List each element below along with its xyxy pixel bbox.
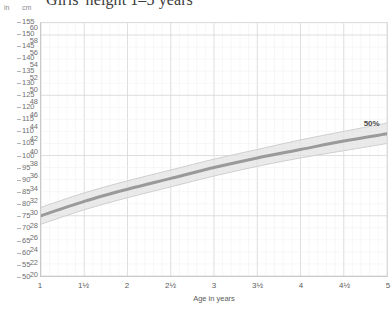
percentile-annotation: 50% xyxy=(364,119,380,128)
y-tick-mark xyxy=(17,216,21,217)
y-tick-mark xyxy=(17,180,21,181)
y-tick-mark xyxy=(17,83,21,84)
y-tick-inches: 50 xyxy=(30,86,38,94)
x-tick-label: 5 xyxy=(386,281,390,290)
x-tick-label: 2 xyxy=(125,281,129,290)
y-tick-mark xyxy=(17,156,21,157)
y-tick-inches: 40 xyxy=(30,148,38,156)
y-tick-inches: 22 xyxy=(30,259,38,267)
y-tick-inches: 30 xyxy=(30,209,38,217)
y-tick-mark xyxy=(17,46,21,47)
axis-unit-inches: in xyxy=(4,4,9,11)
y-tick-mark xyxy=(17,143,21,144)
y-tick-mark xyxy=(17,95,21,96)
y-tick-mark xyxy=(17,204,21,205)
y-tick-inches: 36 xyxy=(30,172,38,180)
y-tick-mark xyxy=(17,71,21,72)
y-tick-inches: 26 xyxy=(30,234,38,242)
x-tick-label: 1 xyxy=(38,281,42,290)
y-tick-inches: 28 xyxy=(30,222,38,230)
x-tick-label: 2½ xyxy=(165,281,176,290)
y-tick-mark xyxy=(17,277,21,278)
x-tick-label: 4½ xyxy=(339,281,350,290)
x-tick-label: 3 xyxy=(212,281,216,290)
growth-curve-50th-percentile xyxy=(41,23,387,276)
y-tick-mark xyxy=(17,265,21,266)
y-tick-inches: 32 xyxy=(30,197,38,205)
y-tick-mark xyxy=(17,241,21,242)
y-tick-mark xyxy=(17,131,21,132)
page-title: Girls' height 1–5 years xyxy=(46,0,193,9)
chart-plot-area xyxy=(40,22,388,277)
y-tick-inches: 24 xyxy=(30,246,38,254)
y-tick-inches: 58 xyxy=(30,37,38,45)
x-tick-label: 4 xyxy=(299,281,303,290)
y-tick-inches: 54 xyxy=(30,61,38,69)
y-tick-mark xyxy=(17,168,21,169)
y-tick-mark xyxy=(17,119,21,120)
y-tick-mark xyxy=(17,228,21,229)
y-tick-mark xyxy=(17,107,21,108)
y-tick-inches: 38 xyxy=(30,160,38,168)
y-tick-mark xyxy=(17,253,21,254)
y-tick-inches: 52 xyxy=(30,74,38,82)
x-tick-label: 3½ xyxy=(252,281,263,290)
y-tick-mark xyxy=(17,22,21,23)
y-tick-mark xyxy=(17,192,21,193)
y-tick-inches: 56 xyxy=(30,49,38,57)
x-tick-label: 1½ xyxy=(78,281,89,290)
y-tick-inches: 42 xyxy=(30,135,38,143)
y-tick-inches: 60 xyxy=(30,24,38,32)
y-tick-mark xyxy=(17,58,21,59)
y-tick-inches: 44 xyxy=(30,123,38,131)
axis-unit-centimeters: cm xyxy=(22,4,31,11)
y-tick-inches: 20 xyxy=(30,271,38,279)
x-axis-label: Age in years xyxy=(193,294,235,303)
y-tick-mark xyxy=(17,34,21,35)
y-tick-inches: 48 xyxy=(30,98,38,106)
y-tick-inches: 34 xyxy=(30,185,38,193)
y-tick-inches: 46 xyxy=(30,111,38,119)
